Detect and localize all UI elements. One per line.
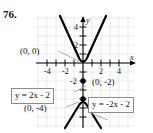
y-axis-arrow: [80, 16, 85, 22]
figure-root: 76.: [0, 0, 153, 133]
callout-equation-left: y = 2x - 2: [11, 88, 54, 104]
label-point-y-neg2: (0, -2): [92, 78, 115, 87]
y-tick-label-2: 2: [74, 41, 78, 50]
leader-eq-left: [74, 86, 86, 92]
y-axis-name: y: [85, 16, 90, 25]
point-0-neg2: [80, 78, 85, 83]
point-0-neg4: [80, 96, 85, 101]
exercise-number: 76.: [3, 9, 17, 20]
y-tick-label-4: 4: [74, 23, 78, 32]
x-tick-label-4: 4: [117, 67, 121, 76]
label-point-y-neg4: (0, -4): [24, 104, 47, 113]
x-tick-label-2: 2: [99, 67, 103, 76]
y-tick-label--2: -2: [70, 77, 77, 86]
leader-neg4: [66, 102, 79, 107]
x-tick-label--4: -4: [44, 67, 51, 76]
label-point-origin: (0, 0): [20, 47, 40, 56]
callout-equation-right: y = -2x - 2: [88, 97, 134, 113]
x-tick-label--2: -2: [62, 67, 69, 76]
x-axis-name: x: [129, 53, 134, 62]
